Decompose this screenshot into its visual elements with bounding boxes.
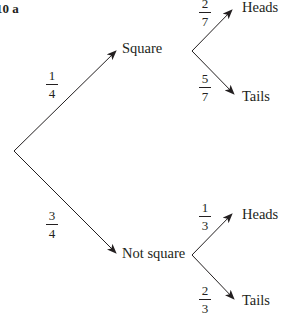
outcome-square-tails: Tails	[242, 89, 270, 104]
prob-not-square-tails: 2 3	[198, 284, 212, 315]
prob-not-square-heads-denominator: 3	[202, 217, 209, 232]
prob-not-square-heads-numerator: 1	[199, 201, 211, 217]
prob-square-tails-denominator: 7	[202, 88, 209, 103]
prob-not-square-heads: 1 3	[198, 201, 212, 232]
question-label: 10 a	[0, 2, 19, 15]
prob-not-square-tails-denominator: 3	[202, 300, 209, 315]
prob-square-heads: 2 7	[198, 0, 212, 28]
outcome-square: Square	[122, 41, 162, 56]
prob-not-square-denominator: 4	[49, 225, 56, 240]
prob-square-tails-numerator: 5	[199, 72, 211, 88]
prob-square-numerator: 1	[46, 69, 58, 85]
branch-root-not-square	[14, 151, 116, 253]
prob-square-heads-denominator: 7	[202, 13, 209, 28]
branch-root-square	[14, 51, 116, 151]
prob-square-tails: 5 7	[198, 72, 212, 103]
prob-square-heads-numerator: 2	[199, 0, 211, 13]
prob-not-square: 3 4	[45, 209, 59, 240]
prob-square: 1 4	[45, 69, 59, 100]
outcome-square-heads: Heads	[242, 0, 278, 15]
outcome-not-square-heads: Heads	[242, 207, 278, 222]
prob-not-square-tails-numerator: 2	[199, 284, 211, 300]
outcome-not-square-tails: Tails	[242, 293, 270, 308]
outcome-not-square: Not square	[122, 246, 185, 261]
prob-square-denominator: 4	[49, 85, 56, 100]
prob-not-square-numerator: 3	[46, 209, 58, 225]
